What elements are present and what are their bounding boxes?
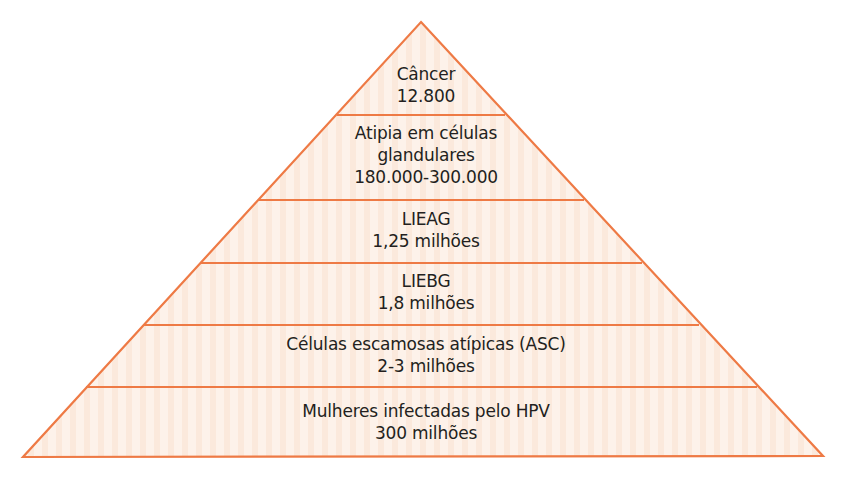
level-atipia-glandulares: Atipia em células glandulares 180.000-30…	[0, 122, 852, 188]
level-value: 12.800	[0, 85, 852, 107]
level-cancer: Câncer 12.800	[0, 63, 852, 107]
level-value: 2-3 milhões	[0, 355, 852, 377]
level-label: LIEBG	[0, 270, 852, 292]
level-label: Câncer	[0, 63, 852, 85]
level-label: Atipia em células	[0, 122, 852, 144]
level-label: Células escamosas atípicas (ASC)	[0, 333, 852, 355]
level-liebg: LIEBG 1,8 milhões	[0, 270, 852, 314]
level-hpv: Mulheres infectadas pelo HPV 300 milhões	[0, 400, 852, 444]
level-label: LIEAG	[0, 208, 852, 230]
level-value: 1,25 milhões	[0, 230, 852, 252]
level-label: Mulheres infectadas pelo HPV	[0, 400, 852, 422]
level-lieag: LIEAG 1,25 milhões	[0, 208, 852, 252]
level-asc: Células escamosas atípicas (ASC) 2-3 mil…	[0, 333, 852, 377]
level-value: 300 milhões	[0, 422, 852, 444]
level-label-line2: glandulares	[0, 144, 852, 166]
level-value: 180.000-300.000	[0, 166, 852, 188]
level-value: 1,8 milhões	[0, 292, 852, 314]
